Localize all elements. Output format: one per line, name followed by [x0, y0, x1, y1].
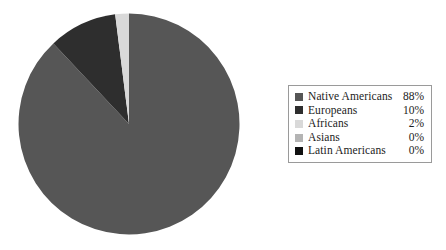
legend-swatch-icon	[295, 120, 303, 128]
legend-swatch-icon	[295, 93, 303, 101]
legend-item-label: Europeans	[308, 104, 398, 118]
legend-item-native-americans[interactable]: Native Americans88%	[295, 90, 424, 104]
legend-item-value: 2%	[398, 117, 424, 131]
legend-swatch-icon	[295, 106, 303, 114]
pie-chart-figure: Native Americans88%Europeans10%Africans2…	[0, 0, 446, 250]
legend-item-europeans[interactable]: Europeans10%	[295, 104, 424, 118]
legend-item-latin-americans[interactable]: Latin Americans0%	[295, 144, 424, 158]
legend-item-africans[interactable]: Africans2%	[295, 117, 424, 131]
pie-slice-native-americans[interactable]	[19, 14, 240, 235]
legend-item-label: Africans	[308, 117, 398, 131]
legend-swatch-icon	[295, 134, 303, 142]
pie-chart-svg	[18, 13, 240, 235]
legend-row-list: Native Americans88%Europeans10%Africans2…	[295, 90, 424, 158]
pie-chart-plot-area	[18, 13, 240, 235]
legend-item-value: 0%	[398, 131, 424, 145]
legend-item-label: Native Americans	[308, 90, 398, 104]
chart-legend: Native Americans88%Europeans10%Africans2…	[288, 85, 432, 163]
legend-item-label: Asians	[308, 131, 398, 145]
legend-item-value: 88%	[398, 90, 424, 104]
legend-item-value: 0%	[398, 144, 424, 158]
legend-swatch-icon	[295, 147, 303, 155]
pie-slice-group	[19, 13, 240, 234]
legend-item-asians[interactable]: Asians0%	[295, 131, 424, 145]
legend-item-value: 10%	[398, 104, 424, 118]
legend-item-label: Latin Americans	[308, 144, 398, 158]
